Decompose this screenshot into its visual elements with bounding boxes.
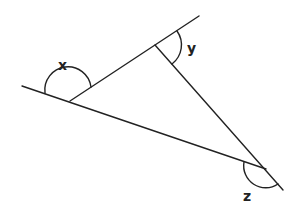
label-x: x <box>58 57 67 73</box>
label-z: z <box>243 188 251 204</box>
label-y: y <box>187 40 196 56</box>
angle-arc-y <box>172 31 181 64</box>
angle-arc-x <box>45 67 91 93</box>
line-ab-extended <box>70 16 199 101</box>
line-ac-extended <box>22 86 266 169</box>
line-bc-extended <box>155 45 283 190</box>
triangle-diagram: x y z <box>0 0 301 215</box>
